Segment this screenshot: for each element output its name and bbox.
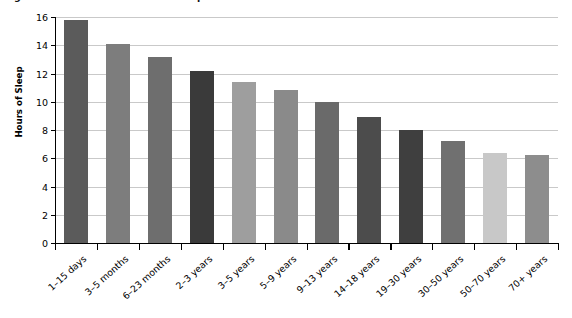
x-axis-tick — [474, 243, 475, 250]
bar[interactable] — [190, 71, 214, 243]
bar-slot — [265, 17, 307, 243]
x-axis-tick-label: 3–5 years — [215, 253, 256, 291]
bar-slot — [223, 17, 265, 243]
bar[interactable] — [106, 44, 130, 243]
y-axis-line — [55, 17, 56, 244]
x-axis-tick — [55, 243, 56, 250]
x-axis-tick — [516, 243, 517, 250]
bar[interactable] — [148, 57, 172, 243]
bar[interactable] — [441, 141, 465, 243]
y-axis-tick-label: 4 — [42, 181, 48, 192]
bar-slot — [474, 17, 516, 243]
bar[interactable] — [525, 155, 549, 243]
x-axis-tick — [432, 243, 433, 250]
figure-caption: Figure 3.1 Number of Hours of Sleep We N… — [4, 0, 323, 2]
bar-slot — [181, 17, 223, 243]
bar[interactable] — [483, 153, 507, 243]
bar[interactable] — [357, 117, 381, 243]
bars-layer — [55, 17, 558, 243]
x-axis-tick — [390, 243, 391, 250]
y-axis-tick-label: 6 — [42, 153, 48, 164]
y-axis-tick-label: 2 — [42, 209, 48, 220]
x-axis-tick-label: 70+ years — [506, 253, 549, 293]
x-axis-tick-label: 1–15 days — [46, 253, 89, 293]
bar[interactable] — [399, 130, 423, 243]
y-axis-title: Hours of Sleep — [14, 54, 24, 150]
bar-slot — [307, 17, 349, 243]
y-axis-tick-label: 0 — [42, 238, 48, 249]
bar[interactable] — [232, 82, 256, 243]
x-axis-tick — [181, 243, 182, 250]
bar[interactable] — [64, 20, 88, 243]
bar-slot — [97, 17, 139, 243]
x-axis-tick — [97, 243, 98, 250]
x-axis-tick — [139, 243, 140, 250]
x-axis-tick — [223, 243, 224, 250]
x-axis-tick — [307, 243, 308, 250]
y-axis-tick-label: 10 — [36, 96, 48, 107]
bar-slot — [390, 17, 432, 243]
plot-area: 0246810121416 — [55, 17, 558, 243]
x-axis-tick — [265, 243, 266, 250]
x-axis-tick-label: 2–3 years — [173, 253, 214, 291]
y-axis-tick-label: 8 — [42, 125, 48, 136]
bar-slot — [139, 17, 181, 243]
bar[interactable] — [315, 102, 339, 243]
x-axis-tick — [558, 243, 559, 250]
y-axis-tick-label: 16 — [36, 12, 48, 23]
x-axis-tick-label: 50–70 years — [458, 253, 508, 299]
x-axis-tick-label: 5–9 years — [257, 253, 298, 291]
figure-container: Figure 3.1 Number of Hours of Sleep We N… — [0, 0, 572, 318]
bar-slot — [432, 17, 474, 243]
y-axis-tick-label: 12 — [36, 68, 48, 79]
bar-slot — [348, 17, 390, 243]
bar[interactable] — [274, 90, 298, 243]
bar-slot — [516, 17, 558, 243]
y-axis-tick-label: 14 — [36, 40, 48, 51]
x-axis-tick — [348, 243, 349, 250]
bar-slot — [55, 17, 97, 243]
